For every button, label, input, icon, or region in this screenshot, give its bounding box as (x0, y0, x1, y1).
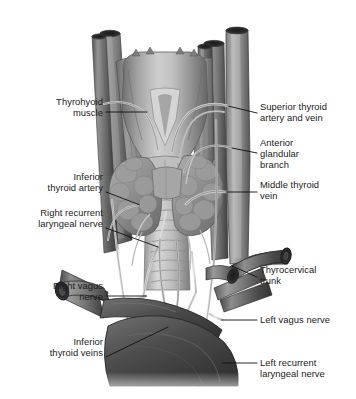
label-right-recurrent-laryngeal-nerve: Right recurrent laryngeal nerve (0, 208, 103, 230)
label-inferior-thyroid-veins: Inferior thyroid veins (0, 337, 103, 359)
label-thyrohyoid-muscle: Thyrohyoid muscle (0, 97, 103, 119)
label-right-vagus-nerve: Right vagus nerve (0, 281, 103, 303)
label-middle-thyroid-vein: Middle thyroid vein (260, 180, 356, 202)
label-inferior-thyroid-artery: Inferior thyroid artery (0, 172, 103, 194)
label-left-vagus-nerve: Left vagus nerve (260, 315, 356, 326)
label-layer: Thyrohyoid muscleInferior thyroid artery… (0, 0, 356, 399)
label-anterior-glandular-branch: Anterior glandular branch (260, 138, 356, 170)
label-left-recurrent-laryngeal-nerve: Left recurrent laryngeal nerve (260, 358, 356, 380)
label-thyrocervical-trunk: Thyrocervical trunk (260, 265, 356, 287)
anatomy-figure: Thyrohyoid muscleInferior thyroid artery… (0, 0, 356, 399)
label-superior-thyroid-artery-and-vein: Superior thyroid artery and vein (260, 102, 356, 124)
